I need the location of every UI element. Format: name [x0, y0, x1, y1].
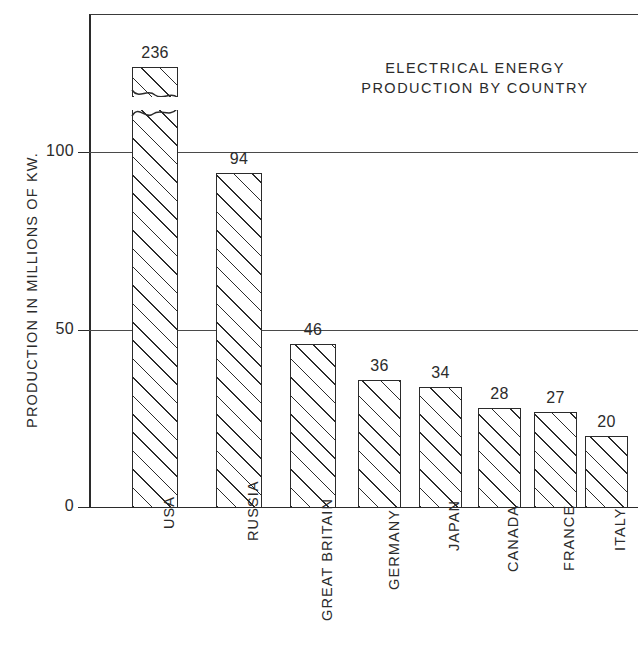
x-category-label-germany: GERMANY [386, 509, 402, 590]
bar-great-britain [290, 344, 336, 508]
y-tick-label-50: 50 [18, 320, 74, 338]
bar-usa-upper-segment [132, 67, 178, 97]
bar-italy [585, 436, 628, 508]
y-axis-label: PRODUCTION IN MILLIONS OF KW. [24, 70, 40, 510]
x-category-label-great-britain: GREAT BRITAIN [319, 498, 335, 621]
bar-value-label-japan: 34 [419, 364, 462, 382]
bar-value-label-italy: 20 [585, 413, 628, 431]
bar-value-label-usa: 236 [132, 44, 178, 62]
chart-title: ELECTRICAL ENERGY PRODUCTION BY COUNTRY [330, 58, 620, 98]
tickmark-100 [78, 152, 89, 153]
tickmark-0 [78, 507, 89, 508]
x-category-label-russia: RUSSIA [245, 480, 261, 541]
bar-germany [358, 380, 401, 508]
bar-chart-figure: PRODUCTION IN MILLIONS OF KW. 100 50 0 E… [0, 0, 638, 652]
bar-value-label-great-britain: 46 [290, 321, 336, 339]
tickmark-50 [78, 330, 89, 331]
x-category-label-japan: JAPAN [446, 500, 462, 551]
bar-value-label-canada: 28 [478, 385, 521, 403]
bar-canada [478, 408, 521, 508]
bar-value-label-france: 27 [534, 389, 577, 407]
y-tick-label-100: 100 [18, 142, 74, 160]
x-category-label-canada: CANADA [505, 505, 521, 572]
y-tick-label-0: 0 [18, 497, 74, 515]
axis-break-gap [132, 97, 178, 110]
bar-usa-lower-segment [132, 110, 178, 508]
x-category-label-france: FRANCE [561, 505, 577, 571]
bar-russia [216, 173, 262, 508]
bar-france [534, 412, 577, 508]
bar-japan [419, 387, 462, 508]
chart-title-line-2: PRODUCTION BY COUNTRY [330, 78, 620, 98]
chart-title-line-1: ELECTRICAL ENERGY [330, 58, 620, 78]
x-category-label-italy: ITALY [612, 507, 628, 551]
bar-value-label-russia: 94 [216, 150, 262, 168]
x-category-label-usa: USA [161, 496, 177, 529]
bar-value-label-germany: 36 [358, 357, 401, 375]
